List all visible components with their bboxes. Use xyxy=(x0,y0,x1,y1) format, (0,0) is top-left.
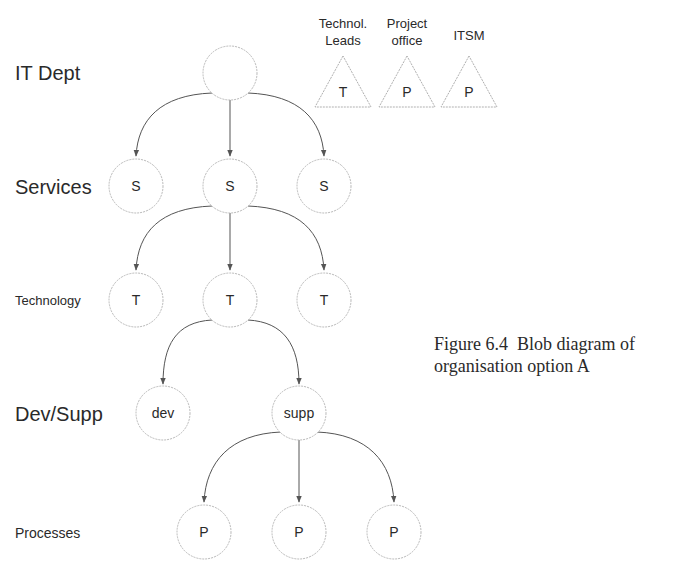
svg-text:S: S xyxy=(131,178,140,194)
svg-text:T: T xyxy=(339,84,348,100)
side-group-project-office: Project office P xyxy=(379,16,435,107)
node-service-1: S xyxy=(109,159,163,213)
node-technology-1: T xyxy=(109,273,163,327)
edges-supp-to-processes xyxy=(204,432,394,502)
svg-text:P: P xyxy=(294,524,303,540)
svg-text:Leads: Leads xyxy=(325,33,361,48)
node-it-dept xyxy=(203,46,257,100)
svg-text:P: P xyxy=(389,524,398,540)
node-service-2: S xyxy=(203,159,257,213)
node-dev: dev xyxy=(136,386,190,440)
svg-text:T: T xyxy=(320,292,329,308)
node-technology-2: T xyxy=(203,273,257,327)
svg-text:supp: supp xyxy=(284,405,315,421)
svg-text:P: P xyxy=(402,84,411,100)
caption-line-2: organisation option A xyxy=(434,356,590,376)
row-label-services: Services xyxy=(15,176,92,198)
svg-text:T: T xyxy=(226,292,235,308)
svg-text:office: office xyxy=(392,33,423,48)
svg-text:P: P xyxy=(464,84,473,100)
node-service-3: S xyxy=(297,159,351,213)
figure-caption: Figure 6.4 Blob diagram of organisation … xyxy=(434,334,635,376)
blob-diagram: IT Dept Services Technology Dev/Supp Pro… xyxy=(0,0,691,564)
svg-text:T: T xyxy=(132,292,141,308)
svg-text:Technol.: Technol. xyxy=(319,16,367,31)
edges-technology-to-devsupp xyxy=(163,320,299,384)
node-process-2: P xyxy=(272,505,326,559)
node-technology-3: T xyxy=(297,273,351,327)
row-label-it-dept: IT Dept xyxy=(15,62,81,84)
node-supp: supp xyxy=(272,386,326,440)
caption-line-1: Figure 6.4 Blob diagram of xyxy=(434,334,635,354)
row-label-technology: Technology xyxy=(15,293,81,308)
svg-text:Project: Project xyxy=(387,16,428,31)
svg-text:dev: dev xyxy=(152,405,175,421)
svg-text:S: S xyxy=(225,178,234,194)
row-label-processes: Processes xyxy=(15,525,80,541)
svg-text:ITSM: ITSM xyxy=(453,28,484,43)
node-process-3: P xyxy=(367,505,421,559)
edges-root-to-services xyxy=(136,93,324,156)
edges-services-to-technology xyxy=(136,206,324,270)
row-label-dev-supp: Dev/Supp xyxy=(15,403,103,425)
node-process-1: P xyxy=(177,505,231,559)
side-group-itsm: ITSM P xyxy=(441,28,497,107)
svg-text:S: S xyxy=(319,178,328,194)
svg-text:P: P xyxy=(199,524,208,540)
side-group-technol-leads: Technol. Leads T xyxy=(315,16,371,107)
